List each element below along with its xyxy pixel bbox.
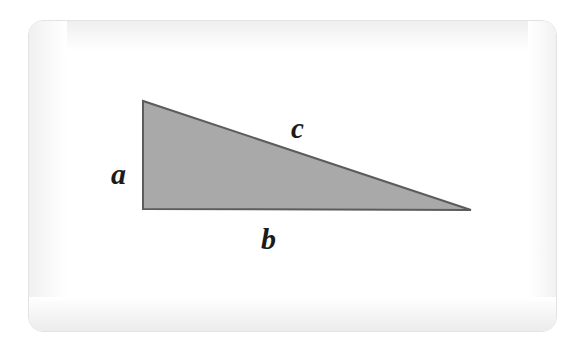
side-label-c: c [291, 114, 304, 143]
triangle-polygon [143, 101, 471, 210]
figure-canvas: a b c [0, 0, 585, 351]
side-label-a: a [111, 159, 126, 189]
figure-card: a b c [28, 20, 557, 332]
side-label-b: b [261, 224, 276, 254]
right-triangle-shape [29, 21, 557, 332]
